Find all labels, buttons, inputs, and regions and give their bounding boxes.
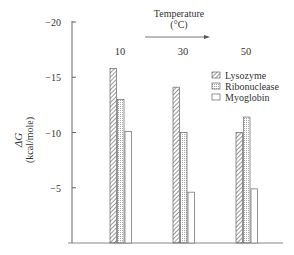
bar-lysozyme-10 (110, 68, 117, 243)
y-ticks: −20−15−10−5 (45, 17, 76, 194)
bar-myoglobin-30 (188, 192, 195, 243)
legend-label-myoglobin: Myoglobin (225, 92, 269, 103)
legend-label-ribonuclease: Ribonuclease (225, 81, 279, 92)
legend: Lysozyme Ribonuclease Myoglobin (212, 70, 279, 103)
temperature-label: Temperature (154, 8, 205, 19)
bar-lysozyme-50 (236, 133, 243, 244)
category-labels: 103050 (115, 46, 252, 57)
bar-lysozyme-30 (173, 87, 180, 243)
temperature-unit: (°C) (170, 19, 187, 31)
bar-myoglobin-10 (125, 131, 132, 243)
bar-ribonuclease-10 (118, 99, 125, 243)
legend-label-lysozyme: Lysozyme (225, 70, 267, 81)
y-tick-label: −10 (45, 128, 61, 139)
bar-myoglobin-50 (251, 189, 258, 243)
arrow-head-icon (204, 35, 210, 39)
y-tick-label: −20 (45, 17, 61, 28)
y-label-line1: ΔG (12, 133, 24, 148)
legend-swatch-ribonuclease (212, 83, 220, 89)
y-label-line2: (kcal/mole) (24, 117, 36, 163)
category-label: 30 (178, 46, 189, 57)
legend-swatch-lysozyme (212, 72, 220, 78)
y-tick-label: −5 (50, 183, 61, 194)
bar-ribonuclease-30 (181, 133, 188, 244)
y-axis-label: ΔG (kcal/mole) (12, 117, 36, 163)
y-tick-label: −15 (45, 72, 61, 83)
bar-ribonuclease-50 (244, 117, 251, 243)
category-label: 50 (241, 46, 252, 57)
legend-swatch-myoglobin (212, 94, 220, 100)
bar-chart: −20−15−10−5 103050 ΔG (kcal/mole) Temper… (0, 0, 294, 255)
category-label: 10 (115, 46, 126, 57)
